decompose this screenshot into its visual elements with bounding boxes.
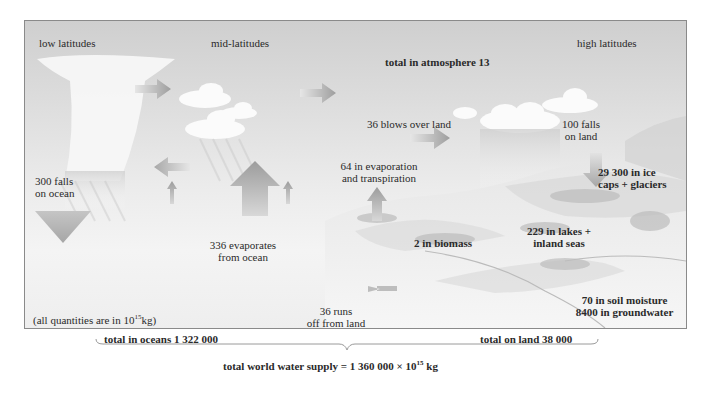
atmosphere-total: total in atmosphere 13 [385, 56, 490, 68]
biomass-label: 2 in biomass [414, 237, 472, 249]
cloud-icon [179, 83, 257, 139]
ice-caps-label: 29 300 in ice caps + glaciers [598, 166, 667, 190]
region-label-high: high latitudes [577, 37, 637, 49]
brace-divider [95, 338, 599, 356]
falls-on-land-label: 100 falls on land [551, 118, 611, 142]
lakes-label: 229 in lakes + inland seas [519, 225, 599, 249]
water-cycle-diagram: low latitudes mid-latitudes high latitud… [24, 20, 687, 329]
falls-on-ocean-label: 300 falls on ocean [35, 175, 74, 199]
blows-over-land-label: 36 blows over land [367, 118, 451, 130]
arrow-left-icon [154, 157, 190, 177]
units-note: (all quantities are in 1015kg) [33, 311, 156, 326]
arrow-up-icon [230, 161, 280, 216]
region-label-low: low latitudes [39, 37, 96, 49]
soil-groundwater-label: 70 in soil moisture 8400 in groundwater [567, 294, 682, 318]
runoff-label: 36 runs off from land [301, 305, 371, 329]
region-label-mid: mid-latitudes [211, 37, 269, 49]
arrow-right-icon [135, 79, 450, 149]
world-total: total world water supply = 1 360 000 × 1… [223, 359, 438, 372]
evapotranspiration-label: 64 in evaporation and transpiration [329, 160, 429, 184]
evaporates-ocean-label: 336 evaporates from ocean [193, 239, 293, 263]
